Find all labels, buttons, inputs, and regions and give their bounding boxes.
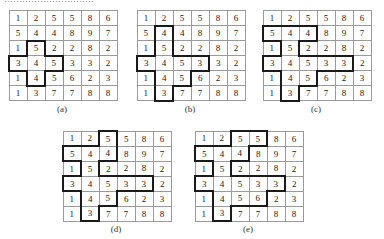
grid-cell: 4	[27, 26, 45, 41]
grid-row: 544897	[137, 26, 245, 41]
grid-cell: 7	[231, 206, 249, 221]
grid-row: 137788	[137, 86, 245, 101]
grid-cell: 7	[45, 86, 63, 101]
panel-caption-c: (c)	[296, 104, 336, 114]
grid-cell: 4	[81, 176, 99, 191]
grid-cell: 5	[45, 56, 63, 71]
grid-cell: 2	[99, 41, 117, 56]
grid-cell: 4	[155, 71, 173, 86]
grid-cell: 2	[353, 56, 371, 71]
grid-cell: 8	[353, 86, 371, 101]
grid-cell: 3	[195, 176, 213, 191]
grid-row: 145623	[137, 71, 245, 86]
grid-cell: 7	[173, 86, 191, 101]
grid-cell: 3	[153, 191, 171, 206]
number-grid: 125586544897152282345332145623137788	[194, 130, 304, 222]
grid-cell: 3	[317, 56, 335, 71]
grid-cell: 2	[213, 131, 231, 146]
grid-panel-a: 125586544897152282345332145623137788	[8, 10, 118, 101]
grid-cell: 1	[263, 11, 281, 26]
grid-cell: 5	[281, 41, 299, 56]
grid-cell: 1	[195, 161, 213, 176]
grid-cell: 3	[63, 176, 81, 191]
grid-cell: 3	[335, 56, 353, 71]
grid-row: 345332	[263, 56, 371, 71]
grid-cell: 3	[135, 176, 153, 191]
grid-cell: 1	[195, 206, 213, 221]
grid-row: 137788	[263, 86, 371, 101]
grid-cell: 1	[263, 86, 281, 101]
grid-cell: 9	[135, 146, 153, 161]
grid-cell: 2	[153, 176, 171, 191]
grid-cell: 1	[195, 131, 213, 146]
grid-cell: 2	[249, 161, 267, 176]
grid-row: 152282	[9, 41, 117, 56]
grid-cell: 5	[317, 11, 335, 26]
grid-cell: 5	[231, 191, 249, 206]
grid-cell: 5	[173, 11, 191, 26]
grid-cell: 2	[45, 41, 63, 56]
grid-cell: 8	[81, 11, 99, 26]
grid-cell: 4	[81, 146, 99, 161]
grid-cell: 3	[117, 176, 135, 191]
grid-cell: 7	[227, 26, 245, 41]
grid-cell: 4	[231, 146, 249, 161]
grid-cell: 6	[63, 71, 81, 86]
grid-cell: 8	[267, 131, 285, 146]
grid-cell: 8	[335, 11, 353, 26]
grid-cell: 2	[285, 176, 303, 191]
grid-cell: 8	[227, 86, 245, 101]
grid-cell: 2	[227, 41, 245, 56]
grid-cell: 5	[99, 176, 117, 191]
grid-cell: 6	[285, 131, 303, 146]
grid-cell: 3	[27, 86, 45, 101]
grid-cell: 4	[213, 146, 231, 161]
grid-cell: 3	[353, 71, 371, 86]
grid-cell: 2	[99, 56, 117, 71]
grid-cell: 7	[63, 86, 81, 101]
grid-cell: 2	[63, 41, 81, 56]
grid-cell: 9	[335, 26, 353, 41]
grid-row: 145623	[195, 191, 303, 206]
grid-cell: 4	[81, 191, 99, 206]
grid-cell: 2	[281, 11, 299, 26]
grid-cell: 2	[267, 191, 285, 206]
grid-row: 345332	[137, 56, 245, 71]
grid-cell: 2	[99, 161, 117, 176]
grid-cell: 5	[173, 71, 191, 86]
grid-cell: 6	[317, 71, 335, 86]
number-grid: 125586544897152282345332145623137788	[8, 10, 118, 101]
grid-cell: 2	[231, 161, 249, 176]
grid-panel-d: 125586544897152282345332145623137788	[62, 130, 172, 222]
grid-cell: 2	[209, 71, 227, 86]
grid-row: 544897	[195, 146, 303, 161]
grid-cell: 3	[209, 56, 227, 71]
grid-cell: 2	[173, 41, 191, 56]
grid-cell: 8	[317, 26, 335, 41]
grid-cell: 1	[9, 71, 27, 86]
grid-cell: 8	[335, 41, 353, 56]
grid-cell: 3	[285, 191, 303, 206]
grid-cell: 7	[99, 206, 117, 221]
grid-cell: 4	[281, 71, 299, 86]
grid-cell: 3	[137, 56, 155, 71]
grid-cell: 4	[155, 56, 173, 71]
grid-cell: 4	[299, 26, 317, 41]
grid-row: 152282	[195, 161, 303, 176]
clipped-top-text: …………………………	[4, 0, 94, 4]
grid-cell: 2	[335, 71, 353, 86]
grid-cell: 8	[135, 206, 153, 221]
grid-cell: 2	[191, 41, 209, 56]
grid-cell: 2	[285, 161, 303, 176]
grid-cell: 8	[267, 206, 285, 221]
panel-caption-d: (d)	[96, 224, 136, 234]
grid-cell: 7	[99, 26, 117, 41]
grid-cell: 9	[209, 26, 227, 41]
grid-cell: 6	[191, 71, 209, 86]
grid-cell: 3	[281, 86, 299, 101]
grid-cell: 8	[135, 161, 153, 176]
grid-cell: 1	[137, 86, 155, 101]
grid-cell: 9	[267, 146, 285, 161]
grid-cell: 3	[99, 71, 117, 86]
grid-cell: 8	[117, 146, 135, 161]
